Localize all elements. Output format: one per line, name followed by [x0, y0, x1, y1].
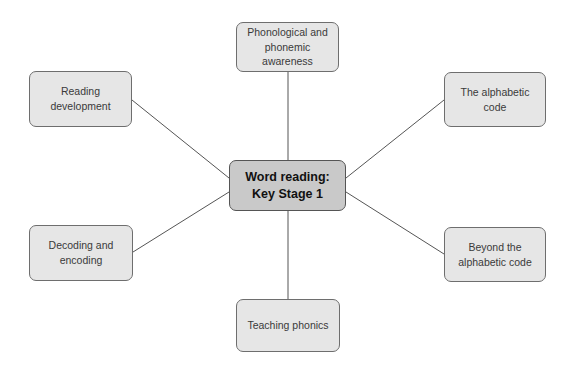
connector-top-left: [132, 100, 229, 178]
node-label: Decoding and encoding: [49, 238, 114, 267]
node-beyond-alphabetic-code: Beyond the alphabetic code: [444, 227, 546, 282]
central-node-label: Word reading: Key Stage 1: [245, 169, 330, 203]
node-alphabetic-code: The alphabetic code: [444, 72, 546, 127]
connector-bottom-left: [133, 192, 229, 252]
node-reading-development: Reading development: [29, 71, 132, 127]
node-phonological-awareness: Phonological and phonemic awareness: [236, 22, 339, 72]
connector-bottom-right: [346, 192, 444, 254]
node-label: Reading development: [50, 84, 110, 113]
node-label: Beyond the alphabetic code: [458, 240, 532, 269]
central-node-word-reading: Word reading: Key Stage 1: [229, 160, 346, 211]
connector-top-right: [346, 100, 444, 178]
node-decoding-encoding: Decoding and encoding: [29, 225, 133, 281]
node-label: The alphabetic code: [461, 85, 530, 114]
node-label: Phonological and phonemic awareness: [247, 25, 328, 69]
node-teaching-phonics: Teaching phonics: [236, 299, 340, 352]
node-label: Teaching phonics: [247, 318, 328, 333]
